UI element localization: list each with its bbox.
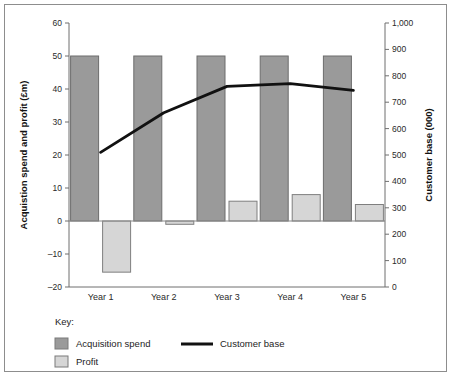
left-axis-tick-label: –20 <box>48 282 62 292</box>
left-axis-tick-label: 20 <box>53 150 63 160</box>
right-axis-tick-label: 500 <box>392 150 406 160</box>
right-axis-tick-label: 900 <box>392 44 406 54</box>
right-axis-title: Customer base (000) <box>423 108 434 201</box>
left-axis-tick-label: 30 <box>53 117 63 127</box>
legend-label-profit: Profit <box>76 356 99 367</box>
legend: Key: Acquisition spend Profit Customer b… <box>55 316 284 367</box>
bar-acquisition-spend <box>197 56 225 221</box>
legend-label-acquisition-spend: Acquisition spend <box>76 338 150 349</box>
left-axis-tick-label: 40 <box>53 84 63 94</box>
left-axis-tick-label: 60 <box>53 18 63 28</box>
right-axis-tick-label: 700 <box>392 97 406 107</box>
chart-svg: 6050403020100–10–20 1,000900800700600500… <box>5 5 448 373</box>
right-axis-ticks: 1,0009008007006005004003002001000 <box>385 18 414 292</box>
right-axis-tick-label: 100 <box>392 256 406 266</box>
left-axis-title: Acquistion spend and profit (£m) <box>18 81 29 230</box>
right-axis-tick-label: 200 <box>392 229 406 239</box>
left-axis-tick-label: –10 <box>48 249 62 259</box>
right-axis-tick-label: 400 <box>392 176 406 186</box>
bar-acquisition-spend <box>323 56 351 221</box>
legend-label-customer-base: Customer base <box>220 338 284 349</box>
legend-swatch-profit <box>55 356 68 367</box>
bar-acquisition-spend <box>260 56 288 221</box>
legend-swatch-acquisition-spend <box>55 338 68 349</box>
right-axis-tick-label: 800 <box>392 71 406 81</box>
bar-acquisition-spend <box>134 56 162 221</box>
category-label: Year 5 <box>341 292 367 302</box>
chart-canvas: 6050403020100–10–20 1,000900800700600500… <box>5 5 448 373</box>
left-axis-tick-label: 0 <box>57 216 62 226</box>
right-axis-tick-label: 300 <box>392 203 406 213</box>
legend-key-label: Key: <box>55 316 74 327</box>
bar-acquisition-spend <box>71 56 99 221</box>
bar-profit <box>292 195 320 221</box>
bar-profit <box>355 205 383 222</box>
figure-frame: 6050403020100–10–20 1,000900800700600500… <box>4 4 447 372</box>
left-axis-ticks: 6050403020100–10–20 <box>48 18 69 292</box>
right-axis-tick-label: 600 <box>392 124 406 134</box>
right-axis-tick-label: 1,000 <box>392 18 414 28</box>
left-axis-tick-label: 50 <box>53 51 63 61</box>
category-label: Year 3 <box>214 292 240 302</box>
category-labels: Year 1Year 2Year 3Year 4Year 5 <box>88 292 367 302</box>
right-axis-tick-label: 0 <box>392 282 397 292</box>
left-axis-tick-label: 10 <box>53 183 63 193</box>
category-label: Year 1 <box>88 292 114 302</box>
bar-profit <box>103 221 131 272</box>
category-label: Year 4 <box>277 292 303 302</box>
bar-profit <box>229 201 257 221</box>
category-label: Year 2 <box>151 292 177 302</box>
